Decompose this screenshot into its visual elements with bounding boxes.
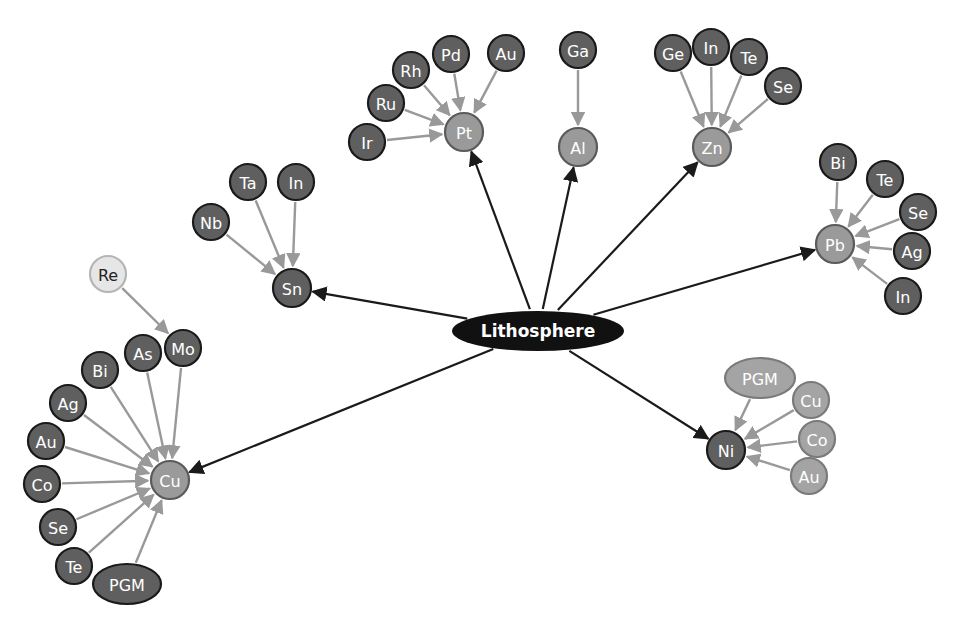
node-primary-pt[interactable]: Pt: [445, 113, 483, 151]
node-ru-from-pt-label: Ru: [376, 95, 397, 114]
node-ag-from-cu[interactable]: Ag: [50, 385, 86, 421]
node-bi-from-pb[interactable]: Bi: [820, 144, 856, 180]
edge-bi-to-cu: [111, 387, 158, 462]
edge-lithosphere-to-ni: [569, 351, 708, 439]
node-in-from-zn[interactable]: In: [693, 29, 729, 65]
node-bi-from-cu-label: Bi: [92, 362, 107, 381]
edge-lithosphere-to-sn: [313, 292, 468, 319]
node-primary-ni-label: Ni: [718, 442, 734, 461]
node-primary-cu[interactable]: Cu: [151, 461, 189, 499]
lithosphere-byproduct-diagram: PtAlZnPbNiCuSnIrRuRhPdAuGaGeInTeSeBiTeSe…: [0, 0, 962, 624]
edge-ir-to-pt: [387, 134, 442, 140]
edge-ag-to-cu: [84, 415, 152, 467]
node-primary-pb-label: Pb: [825, 236, 845, 255]
node-in-from-pb[interactable]: In: [885, 278, 921, 314]
node-in-from-pb-label: In: [896, 288, 911, 307]
edge-lithosphere-to-zn: [558, 162, 698, 310]
node-bi-from-pb-label: Bi: [830, 154, 845, 173]
node-co-from-cu-label: Co: [32, 476, 53, 495]
node-au-from-cu[interactable]: Au: [28, 423, 64, 459]
node-primary-zn[interactable]: Zn: [693, 128, 731, 166]
node-se-from-zn[interactable]: Se: [765, 68, 801, 104]
edge-se-to-pb: [856, 219, 900, 236]
edge-co-to-ni: [748, 441, 797, 447]
node-co-from-ni[interactable]: Co: [799, 421, 835, 457]
node-au-from-ni[interactable]: Au: [791, 458, 827, 494]
node-pgm-from-ni-label: PGM: [742, 370, 778, 389]
edge-re-to-mo: [122, 288, 168, 333]
node-as-from-cu[interactable]: As: [125, 335, 161, 371]
node-primary-zn-label: Zn: [701, 139, 722, 158]
edge-ru-to-pt: [405, 110, 444, 124]
node-in-from-zn-label: In: [704, 39, 719, 58]
node-primary-sn-label: Sn: [282, 280, 302, 299]
node-primary-pb[interactable]: Pb: [816, 225, 854, 263]
node-au-from-pt[interactable]: Au: [488, 35, 524, 71]
node-ta-from-sn[interactable]: Ta: [230, 164, 266, 200]
edge-lithosphere-to-al: [543, 168, 574, 310]
node-au-from-ni-label: Au: [798, 468, 819, 487]
node-pd-from-pt[interactable]: Pd: [433, 36, 469, 72]
node-ir-from-pt[interactable]: Ir: [349, 124, 385, 160]
node-se-from-pb[interactable]: Se: [900, 194, 936, 230]
node-primary-al[interactable]: Al: [559, 128, 597, 166]
node-bi-from-cu[interactable]: Bi: [82, 352, 118, 388]
edge-au-to-cu: [65, 447, 149, 473]
node-rh-from-pt[interactable]: Rh: [393, 52, 429, 88]
node-primary-ni[interactable]: Ni: [707, 431, 745, 469]
node-pgm-from-ni[interactable]: PGM: [725, 358, 795, 398]
edge-ta-to-sn: [256, 200, 284, 267]
edge-au-to-ni: [747, 457, 790, 470]
node-nb-from-sn[interactable]: Nb: [193, 204, 229, 240]
node-primary-pt-label: Pt: [456, 124, 472, 143]
node-te-from-cu[interactable]: Te: [56, 548, 92, 584]
node-au-from-cu-label: Au: [35, 433, 56, 452]
node-te-from-pb[interactable]: Te: [867, 161, 903, 197]
node-mo-from-cu[interactable]: Mo: [165, 330, 201, 366]
node-te-from-pb-label: Te: [876, 171, 894, 190]
edge-ge-to-zn: [681, 71, 704, 126]
node-in-from-sn[interactable]: In: [278, 164, 314, 200]
node-te-from-zn-label: Te: [740, 49, 758, 68]
edge-mo-to-cu: [172, 368, 181, 458]
edge-rh-to-pt: [424, 85, 450, 115]
node-primary-cu-label: Cu: [159, 472, 180, 491]
node-ge-from-zn[interactable]: Ge: [655, 35, 691, 71]
node-ga-from-al-label: Ga: [567, 42, 589, 61]
edge-bi-to-pb: [836, 182, 837, 222]
node-cu-from-ni-label: Cu: [800, 392, 821, 411]
node-au-from-pt-label: Au: [495, 45, 516, 64]
node-primary-sn[interactable]: Sn: [273, 269, 311, 307]
node-re-from-mo[interactable]: Re: [90, 256, 126, 292]
node-mo-from-cu-label: Mo: [171, 340, 195, 359]
node-se-from-zn-label: Se: [773, 78, 793, 97]
node-ga-from-al[interactable]: Ga: [560, 32, 596, 68]
node-te-from-zn[interactable]: Te: [731, 39, 767, 75]
node-ru-from-pt[interactable]: Ru: [368, 85, 404, 121]
edge-pgm-to-ni: [735, 399, 750, 430]
node-rh-from-pt-label: Rh: [400, 62, 421, 81]
edge-ag-to-pb: [857, 246, 892, 249]
edge-in-to-pb: [852, 257, 887, 283]
node-cu-from-ni[interactable]: Cu: [793, 382, 829, 418]
node-ta-from-sn-label: Ta: [239, 174, 257, 193]
hub-edges: [189, 152, 814, 472]
node-co-from-cu[interactable]: Co: [24, 466, 60, 502]
hub-node[interactable]: Lithosphere: [452, 311, 624, 351]
edge-te-to-pb: [848, 195, 872, 227]
node-primary-al-label: Al: [570, 139, 585, 158]
node-co-from-ni-label: Co: [807, 431, 828, 450]
edge-nb-to-sn: [227, 235, 275, 274]
edge-co-to-cu: [62, 481, 148, 484]
node-se-from-cu[interactable]: Se: [40, 509, 76, 545]
edge-se-to-cu: [76, 489, 149, 520]
node-ag-from-pb[interactable]: Ag: [894, 233, 930, 269]
node-ag-from-pb-label: Ag: [901, 243, 922, 262]
edge-lithosphere-to-pb: [593, 250, 814, 315]
node-nb-from-sn-label: Nb: [200, 214, 222, 233]
lithosphere-label: Lithosphere: [481, 321, 595, 341]
node-in-from-sn-label: In: [289, 174, 304, 193]
node-pgm-from-cu[interactable]: PGM: [93, 564, 161, 604]
node-se-from-cu-label: Se: [48, 519, 68, 538]
node-re-from-mo-label: Re: [98, 266, 118, 285]
